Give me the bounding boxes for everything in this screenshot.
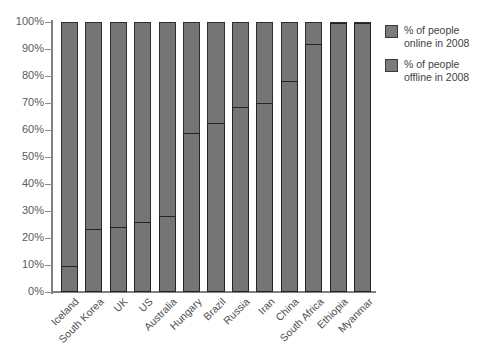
bar-group[interactable] <box>134 22 151 292</box>
bar-group[interactable] <box>354 22 371 292</box>
bar-group[interactable] <box>61 22 78 292</box>
bar-group[interactable] <box>85 22 102 292</box>
y-axis-tick-label: 40% <box>2 178 44 189</box>
y-axis-tick-label: 0% <box>2 286 44 297</box>
bar-group[interactable] <box>305 22 322 292</box>
legend-item-label: % of people online in 2008 <box>404 24 469 49</box>
y-axis-tick <box>45 292 52 293</box>
y-axis-tick <box>45 130 52 131</box>
bar-segment-online[interactable] <box>159 216 176 292</box>
y-axis-tick <box>45 49 52 50</box>
x-axis-tick-label: Russia <box>222 296 252 326</box>
bar-group[interactable] <box>256 22 273 292</box>
y-axis-tick <box>45 238 52 239</box>
bar-group[interactable] <box>183 22 200 292</box>
y-axis-tick-label: 20% <box>2 232 44 243</box>
bar-segment-online[interactable] <box>354 23 371 292</box>
y-axis-tick <box>45 157 52 158</box>
legend-item-label: % of people offline in 2008 <box>404 58 469 83</box>
bar-segment-online[interactable] <box>134 222 151 292</box>
legend-swatch-icon <box>385 25 398 38</box>
y-axis-tick <box>45 76 52 77</box>
bar-segment-offline[interactable] <box>61 22 78 292</box>
legend-swatch-icon <box>385 59 398 72</box>
bar-segment-online[interactable] <box>305 44 322 292</box>
bar-segment-online[interactable] <box>281 81 298 292</box>
bar-segment-online[interactable] <box>232 107 249 292</box>
y-axis-tick-label: 80% <box>2 70 44 81</box>
bar-segment-online[interactable] <box>207 123 224 292</box>
bar-segment-online[interactable] <box>85 229 102 292</box>
x-axis-tick-label: UK <box>112 296 130 314</box>
bar-group[interactable] <box>207 22 224 292</box>
y-axis-tick-label: 30% <box>2 205 44 216</box>
bar-group[interactable] <box>330 22 347 292</box>
bar-chart: 0%10%20%30%40%50%60%70%80%90%100% Icelan… <box>0 0 485 346</box>
bar-group[interactable] <box>110 22 127 292</box>
y-axis-tick <box>45 103 52 104</box>
legend-item[interactable]: % of people online in 2008 <box>385 24 483 49</box>
chart-legend: % of people online in 2008% of people of… <box>385 24 483 92</box>
y-axis-tick-label: 90% <box>2 43 44 54</box>
bar-segment-online[interactable] <box>330 23 347 292</box>
bar-segment-online[interactable] <box>183 133 200 292</box>
y-axis-tick <box>45 22 52 23</box>
bar-segment-online[interactable] <box>110 227 127 292</box>
y-axis-tick-label: 60% <box>2 124 44 135</box>
bar-group[interactable] <box>281 22 298 292</box>
y-axis-tick <box>45 265 52 266</box>
legend-item[interactable]: % of people offline in 2008 <box>385 58 483 83</box>
bar-segment-online[interactable] <box>256 103 273 292</box>
y-axis-tick-label: 70% <box>2 97 44 108</box>
y-axis-tick-label: 10% <box>2 259 44 270</box>
y-axis-tick-label: 100% <box>2 16 44 27</box>
x-axis-tick-label: US <box>136 296 154 314</box>
bar-group[interactable] <box>232 22 249 292</box>
y-axis-tick-label: 50% <box>2 151 44 162</box>
y-axis-tick <box>45 184 52 185</box>
bar-group[interactable] <box>159 22 176 292</box>
y-axis-tick <box>45 211 52 212</box>
plot-area <box>57 22 375 292</box>
bar-segment-online[interactable] <box>61 266 78 292</box>
